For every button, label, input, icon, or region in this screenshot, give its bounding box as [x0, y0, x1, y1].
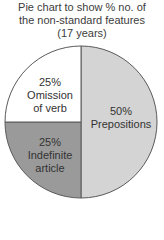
label-prepositions: 50% Prepositions	[86, 105, 156, 131]
label-indefinite-article: 25% Indefinite article	[20, 136, 80, 175]
label-omission-of-verb: 25% Omission of verb	[20, 76, 80, 115]
